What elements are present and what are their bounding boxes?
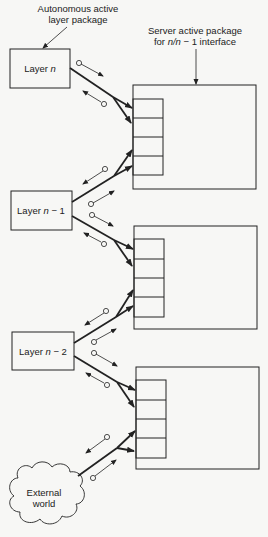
autonomous-label-line1: Autonomous active: [38, 3, 119, 14]
pointer-arrow: [43, 27, 67, 48]
layer-n-minus-1-box: Layer n − 1: [11, 191, 72, 230]
autonomous-annotation: Autonomous active layer package: [38, 3, 119, 48]
server-package-1: [133, 85, 256, 189]
layer-n-box: Layer n: [10, 49, 70, 88]
connections: [70, 68, 135, 476]
layer-label: Layer n − 1: [17, 205, 65, 216]
layer-label: Layer n: [24, 63, 56, 74]
entry-queue: [136, 380, 166, 458]
external-label-line2: world: [32, 498, 56, 509]
entry-queue: [133, 99, 163, 175]
external-world-cloud: External world: [10, 462, 85, 524]
server-label-line2: for n/n − 1 interface: [154, 36, 236, 47]
layer-label: Layer n − 2: [19, 346, 67, 357]
layer-n-minus-2-box: Layer n − 2: [12, 332, 74, 370]
autonomous-label-line2: layer package: [48, 14, 107, 25]
server-label-line1: Server active package: [148, 25, 242, 36]
entry-queue: [134, 239, 164, 317]
server-package-3: [136, 367, 259, 469]
external-label-line1: External: [27, 487, 62, 498]
message-tokens: [76, 60, 117, 480]
server-package-2: [134, 226, 257, 329]
server-annotation: Server active package for n/n − 1 interf…: [148, 25, 242, 84]
layered-architecture-diagram: Autonomous active layer package Server a…: [0, 0, 268, 537]
